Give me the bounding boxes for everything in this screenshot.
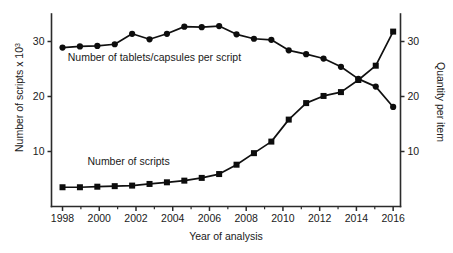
data-point	[268, 139, 274, 145]
data-point	[147, 181, 153, 187]
right-tick-label-30: 30	[408, 35, 420, 47]
data-point	[164, 31, 170, 37]
data-point	[129, 183, 135, 189]
data-point	[181, 178, 187, 184]
data-point	[181, 24, 187, 30]
x-tick-label-2002: 2002	[124, 212, 148, 224]
data-point	[321, 93, 327, 99]
x-axis-title: Year of analysis	[189, 230, 263, 242]
data-point	[338, 89, 344, 95]
series-annotation-tablets: Number of tablets/capsules per script	[68, 51, 241, 63]
data-point	[338, 64, 344, 70]
left-tick-label-10: 10	[33, 145, 45, 157]
data-point	[112, 41, 118, 47]
data-point	[303, 51, 309, 57]
data-point	[216, 171, 222, 177]
data-point	[286, 47, 292, 53]
data-point	[390, 29, 396, 35]
data-point	[390, 104, 396, 110]
data-point	[373, 63, 379, 69]
data-point	[60, 184, 66, 190]
left-tick-label-20: 20	[33, 90, 45, 102]
series-annotation-scripts: Number of scripts	[87, 155, 169, 167]
data-point	[234, 162, 240, 168]
y-axis-title: Number of scripts x 103	[13, 43, 25, 152]
data-point	[164, 179, 170, 185]
data-point	[233, 31, 239, 37]
data-point	[199, 175, 205, 181]
data-point	[199, 24, 205, 30]
x-tick-label-2014: 2014	[345, 212, 369, 224]
data-point	[94, 43, 100, 49]
left-tick-label-30: 30	[33, 35, 45, 47]
x-tick-label-2004: 2004	[161, 212, 185, 224]
x-tick-label-2000: 2000	[88, 212, 112, 224]
data-point	[129, 31, 135, 37]
data-point	[77, 43, 83, 49]
data-point	[112, 183, 118, 189]
data-point	[251, 150, 257, 156]
chart-figure: 102030 102030 19982000200220042006200820…	[0, 0, 453, 253]
y2-axis-title: Quantity per item	[435, 62, 447, 142]
x-tick-label-2010: 2010	[271, 212, 295, 224]
data-point	[146, 36, 152, 42]
data-point	[355, 77, 361, 83]
data-point	[77, 184, 83, 190]
data-point	[216, 23, 222, 29]
data-point	[94, 184, 100, 190]
x-tick-label-1998: 1998	[51, 212, 75, 224]
chart-plot-svg: 102030 102030 19982000200220042006200820…	[0, 0, 453, 253]
right-tick-label-20: 20	[408, 90, 420, 102]
data-point	[251, 36, 257, 42]
data-point	[303, 100, 309, 106]
data-point	[320, 55, 326, 61]
x-tick-label-2012: 2012	[308, 212, 332, 224]
data-point	[268, 37, 274, 43]
x-tick-label-2008: 2008	[235, 212, 259, 224]
data-point	[59, 44, 65, 50]
data-point	[286, 117, 292, 123]
x-tick-label-2016: 2016	[381, 212, 405, 224]
right-tick-label-10: 10	[408, 145, 420, 157]
data-point	[373, 84, 379, 90]
x-tick-label-2006: 2006	[198, 212, 222, 224]
